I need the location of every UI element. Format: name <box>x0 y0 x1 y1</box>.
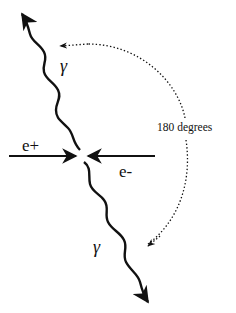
angle-arc-dotted <box>88 44 187 244</box>
positron-label: e+ <box>22 136 39 155</box>
angle-label: 180 degrees <box>157 121 213 134</box>
photon-bottom-wavy-line <box>84 162 148 302</box>
angle-arc-top-arrowhead <box>60 44 88 46</box>
photon-top-label: γ <box>60 56 68 76</box>
photon-bottom-label: γ <box>93 237 101 257</box>
annihilation-diagram: γ γ e+ e- 180 degrees <box>0 0 236 313</box>
photon-top-wavy-line <box>22 14 80 150</box>
angle-arc-bottom-arrowhead <box>148 236 160 246</box>
electron-label: e- <box>119 162 133 181</box>
